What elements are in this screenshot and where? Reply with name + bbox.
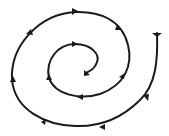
arrow-icon xyxy=(119,73,125,79)
direction-arrows xyxy=(10,8,162,130)
arrow-icon xyxy=(46,74,52,80)
arrow-icon xyxy=(99,124,105,130)
arrow-icon xyxy=(72,8,78,15)
arrow-icon xyxy=(152,33,162,37)
arrow-icon xyxy=(143,94,149,101)
spiral-diagram xyxy=(0,0,169,136)
spiral-path xyxy=(12,12,157,126)
arrow-icon xyxy=(72,41,78,47)
arrow-icon xyxy=(77,94,83,100)
